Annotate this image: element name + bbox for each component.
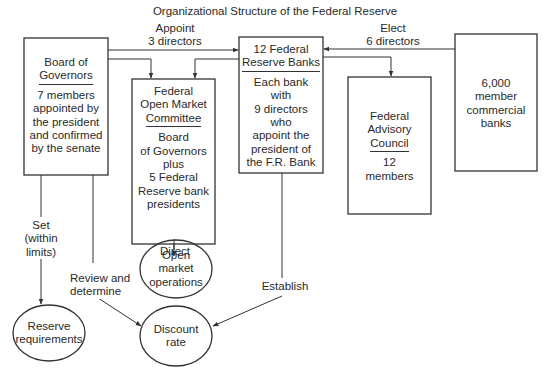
- banks-body: Each bank with 9 directors who appoint t…: [246, 76, 315, 170]
- board-of-governors: Board of Governors 7 members appointed b…: [24, 56, 108, 156]
- edge-review-lower: [95, 296, 141, 326]
- board-body: 7 members appointed by the president and…: [30, 89, 103, 156]
- edge-label-elect: Elect 6 directors: [355, 22, 431, 49]
- edge-label-appoint: Appoint 3 directors: [140, 22, 210, 49]
- edge-label-establish: Establish: [260, 280, 310, 293]
- federal-advisory-council: Federal Advisory Council 12 members: [348, 110, 431, 183]
- council-header: Federal Advisory Council: [367, 110, 411, 156]
- edge-banks-to-council: [323, 57, 391, 76]
- edge-banks-to-fomc: [195, 59, 239, 78]
- edge-establish-lower: [213, 296, 282, 326]
- discount-rate: Discount rate: [140, 306, 212, 366]
- diagram-title: Organizational Structure of the Federal …: [0, 5, 550, 17]
- council-body: 12 members: [366, 156, 414, 183]
- federal-reserve-banks: 12 Federal Reserve Banks Each bank with …: [239, 43, 323, 170]
- member-banks: 6,000 member commercial banks: [455, 77, 537, 131]
- banks-header: 12 Federal Reserve Banks: [242, 43, 320, 76]
- member-banks-body: 6,000 member commercial banks: [467, 77, 526, 131]
- fomc: Federal Open Market Committee Board of G…: [132, 85, 215, 212]
- fomc-header: Federal Open Market Committee: [140, 85, 206, 131]
- reserve-requirements: Reserve requirements: [13, 305, 85, 361]
- edge-board-to-fomc: [108, 59, 151, 78]
- edge-label-review: Review and determine: [70, 272, 132, 299]
- fomc-body: Board of Governors plus 5 Federal Reserv…: [138, 131, 209, 211]
- edge-label-set: Set (within limits): [20, 219, 62, 259]
- board-header: Board of Governors: [39, 56, 93, 89]
- edge-label-direct: Direct: [155, 245, 195, 258]
